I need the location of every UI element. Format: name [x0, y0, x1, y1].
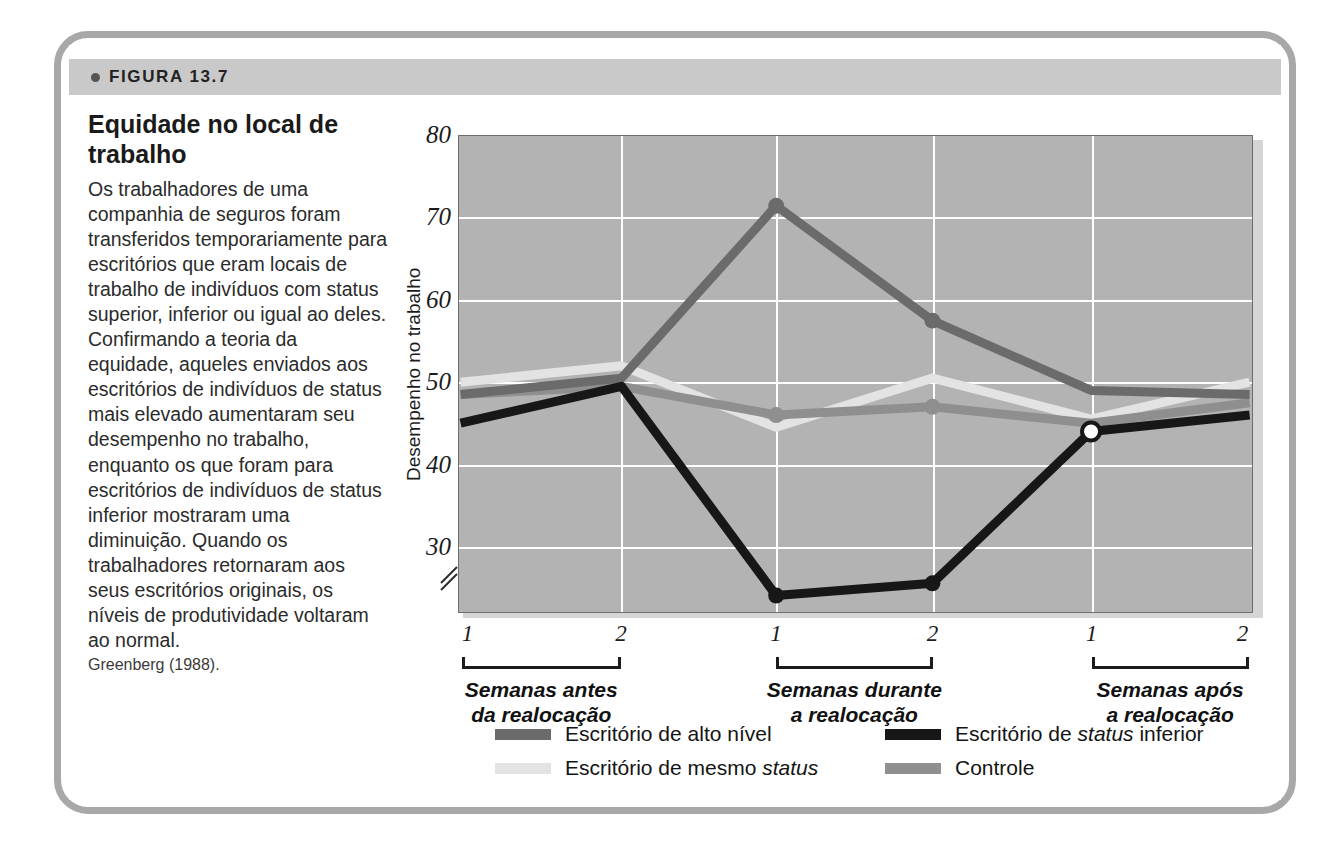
data-point-marker [1082, 422, 1100, 440]
x-tick-label-1: 2 [615, 621, 627, 647]
caption-column: Equidade no local de trabalho Os trabalh… [88, 110, 388, 690]
legend-item[interactable]: Escritório de status inferior [885, 722, 1204, 746]
data-point-marker [768, 407, 784, 423]
x-group-label-1: Semanas durantea realocação [724, 677, 984, 727]
data-point-marker [924, 575, 940, 591]
x-tick-label-2: 1 [770, 621, 782, 647]
figure-title: Equidade no local de trabalho [88, 110, 388, 169]
legend-item[interactable]: Escritório de alto nível [495, 722, 772, 746]
x-group-bracket-2 [1092, 657, 1249, 669]
x-group-label-2: Semanas apósa realocação [1040, 677, 1300, 727]
figure-body-text: Os trabalhadores de uma companhia de seg… [88, 177, 388, 653]
group-label-line1: Semanas durante [767, 678, 942, 701]
y-tick-label-70: 70 [395, 203, 451, 231]
x-tick-label-0: 1 [462, 621, 474, 647]
legend-label: Controle [955, 756, 1034, 780]
x-group-bracket-0 [462, 657, 621, 669]
legend-swatch-icon [885, 729, 941, 740]
y-tick-label-60: 60 [395, 286, 451, 314]
y-tick-label-30: 30 [395, 533, 451, 561]
y-tick-label-40: 40 [395, 451, 451, 479]
legend-label: Escritório de mesmo status [565, 756, 818, 780]
x-tick-label-3: 2 [927, 621, 939, 647]
y-tick-label-80: 80 [395, 121, 451, 149]
data-series-layer [459, 136, 1252, 612]
legend-swatch-icon [495, 763, 551, 774]
group-label-line1: Semanas após [1097, 678, 1244, 701]
data-point-marker [924, 313, 940, 329]
x-group-label-0: Semanas antesda realocação [411, 677, 671, 727]
figure-number-label: FIGURA 13.7 [109, 67, 229, 87]
plot-area [458, 135, 1253, 613]
data-point-marker [924, 399, 940, 415]
legend-label: Escritório de alto nível [565, 722, 772, 746]
group-label-line1: Semanas antes [465, 678, 618, 701]
x-group-bracket-1 [776, 657, 933, 669]
figure-header-band: FIGURA 13.7 [69, 59, 1281, 95]
legend-item[interactable]: Escritório de mesmo status [495, 756, 818, 780]
figure-page: FIGURA 13.7 Equidade no local de trabalh… [0, 0, 1344, 863]
legend-label: Escritório de status inferior [955, 722, 1204, 746]
y-tick-label-50: 50 [395, 368, 451, 396]
x-tick-label-4: 1 [1086, 621, 1098, 647]
legend-swatch-icon [885, 763, 941, 774]
bullet-dot-icon [91, 73, 100, 82]
legend-swatch-icon [495, 729, 551, 740]
legend-item[interactable]: Controle [885, 756, 1034, 780]
data-point-marker [768, 588, 784, 604]
data-point-marker [768, 198, 784, 214]
chart-container: Desempenho no trabalho 807060504030 1212… [395, 108, 1295, 798]
figure-source-citation: Greenberg (1988). [88, 655, 388, 674]
x-tick-label-5: 2 [1237, 621, 1249, 647]
